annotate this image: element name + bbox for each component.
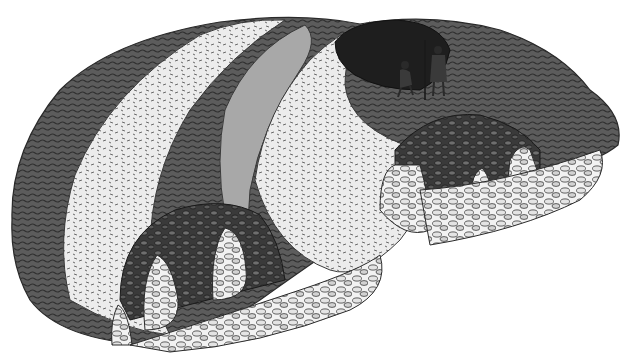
- illustration-canvas: [0, 0, 629, 358]
- earthwork-illustration: [0, 0, 629, 358]
